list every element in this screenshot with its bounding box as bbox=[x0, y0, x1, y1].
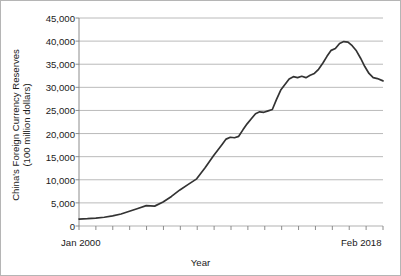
x-axis-start-label: Jan 2000 bbox=[61, 237, 100, 248]
x-axis-end-label: Feb 2018 bbox=[341, 237, 382, 248]
y-axis-tick-label: 0 bbox=[70, 221, 75, 232]
gridlines bbox=[79, 18, 383, 226]
y-axis-tick-label: 30,000 bbox=[46, 82, 75, 93]
chart-figure: China's Foreign Currency Reserves (100 m… bbox=[0, 0, 401, 276]
chart-plot-svg bbox=[79, 18, 383, 226]
y-axis-tick-label: 35,000 bbox=[46, 59, 75, 70]
y-axis-tick-label: 25,000 bbox=[46, 105, 75, 116]
y-axis-tick-labels: 45,00040,00035,00030,00025,00020,00015,0… bbox=[23, 1, 75, 276]
axis-lines bbox=[76, 18, 80, 226]
x-axis-title: Year bbox=[1, 257, 400, 268]
y-axis-tick-label: 40,000 bbox=[46, 36, 75, 47]
y-axis-title-line-1: China's Foreign Currency Reserves bbox=[11, 49, 22, 201]
y-axis-tick-label: 10,000 bbox=[46, 174, 75, 185]
y-axis-tick-label: 45,000 bbox=[46, 13, 75, 24]
y-axis-tick-label: 20,000 bbox=[46, 128, 75, 139]
x-axis-ticks bbox=[79, 226, 383, 230]
data-series-line bbox=[79, 42, 383, 220]
y-axis-tick-label: 15,000 bbox=[46, 151, 75, 162]
plot-area bbox=[79, 18, 383, 226]
y-axis-tick-label: 5,000 bbox=[51, 197, 75, 208]
